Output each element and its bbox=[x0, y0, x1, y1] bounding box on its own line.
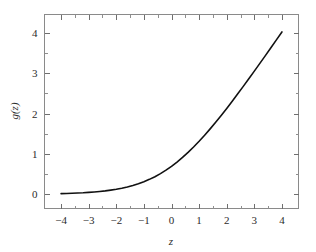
x-tick-label: 3 bbox=[252, 214, 258, 226]
x-tick-label: −4 bbox=[55, 214, 67, 226]
x-tick-label: −3 bbox=[83, 214, 95, 226]
plot-svg: −4−3−2−101234 01234 z g(z) bbox=[0, 0, 316, 252]
y-tick-label: 4 bbox=[32, 27, 38, 39]
y-axis-label: g(z) bbox=[8, 102, 21, 119]
x-tick-label: 1 bbox=[196, 214, 202, 226]
y-tick-label: 2 bbox=[32, 108, 38, 120]
x-tick-label: 4 bbox=[279, 214, 285, 226]
figure-background bbox=[0, 0, 316, 252]
y-tick-label: 0 bbox=[32, 188, 38, 200]
x-tick-label: −1 bbox=[138, 214, 150, 226]
y-tick-label: 1 bbox=[32, 148, 38, 160]
x-tick-label: 2 bbox=[224, 214, 230, 226]
x-tick-label: −2 bbox=[110, 214, 122, 226]
x-axis-label: z bbox=[168, 235, 174, 247]
y-tick-label: 3 bbox=[32, 67, 38, 79]
x-tick-label: 0 bbox=[169, 214, 175, 226]
figure-softplus-plot: −4−3−2−101234 01234 z g(z) bbox=[0, 0, 316, 252]
x-tick-labels-group: −4−3−2−101234 bbox=[55, 214, 285, 226]
